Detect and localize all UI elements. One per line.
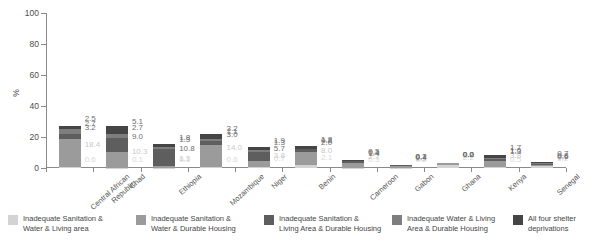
bar-value-label: 3.2 xyxy=(226,123,237,132)
bar-value-label: 0.5 xyxy=(368,147,379,156)
bar-value-label: 1.8 xyxy=(321,134,332,143)
x-axis-label: Cameroon xyxy=(368,172,400,202)
bar-segment[interactable] xyxy=(437,165,459,168)
bar-value-label: 0.0 xyxy=(463,149,474,158)
bar-segment[interactable] xyxy=(484,167,506,168)
legend-item[interactable]: All four shelter deprivations xyxy=(513,214,600,234)
bars-layer: 0.618.43.22.72.50.110.39.02.75.10.11.310… xyxy=(46,13,566,168)
bar-value-label: 9.0 xyxy=(132,131,143,140)
y-tick-label: 60 xyxy=(30,70,39,80)
bar-stack[interactable] xyxy=(484,155,506,168)
bar-segment[interactable] xyxy=(200,167,222,168)
chart-legend: Inadequate Sanitation & Water & Living a… xyxy=(8,214,600,244)
bar-value-label: 8.0 xyxy=(321,145,332,154)
x-axis-label: Kenya xyxy=(507,172,529,193)
x-axis-label: Mozambique xyxy=(228,172,266,207)
bar-segment[interactable] xyxy=(531,166,553,168)
bar-stack[interactable] xyxy=(248,147,270,168)
bar-segment[interactable] xyxy=(295,152,317,164)
bar-stack[interactable] xyxy=(531,162,553,168)
bar-value-label: 10.8 xyxy=(179,144,195,153)
x-axis-label: Ethiopia xyxy=(177,172,203,197)
bar-stack[interactable] xyxy=(106,126,128,168)
bar-value-label: 2.1 xyxy=(321,153,332,162)
bar-value-label: 1.3 xyxy=(179,153,190,162)
y-tick-label: 80 xyxy=(30,39,39,49)
bar-segment[interactable] xyxy=(59,139,81,168)
legend-swatch xyxy=(136,215,146,225)
bar-value-label: 10.3 xyxy=(132,146,148,155)
legend-label: Inadequate Water & Living Area & Durable… xyxy=(407,214,495,234)
bar-segment[interactable] xyxy=(106,138,128,152)
bar-value-label: 0.6 xyxy=(85,154,96,163)
legend-label: Inadequate Sanitation & Living Area & Du… xyxy=(279,214,381,234)
bar-segment[interactable] xyxy=(153,149,175,166)
bar-stack[interactable] xyxy=(437,163,459,168)
bar-value-label: 0.1 xyxy=(132,154,143,163)
bar-stack[interactable] xyxy=(390,165,412,168)
legend-label: Inadequate Sanitation & Water & Durable … xyxy=(151,214,236,234)
y-axis-title: % xyxy=(11,89,21,97)
legend-item[interactable]: Inadequate Sanitation & Water & Durable … xyxy=(136,214,236,234)
y-tick-label: 100 xyxy=(25,8,39,18)
bar-segment[interactable] xyxy=(59,167,81,168)
plot-area: 020406080100 0.618.43.22.72.50.110.39.02… xyxy=(46,13,566,168)
bar-value-label: 0.6 xyxy=(226,154,237,163)
stacked-bar-chart: % 020406080100 0.618.43.22.72.50.110.39.… xyxy=(0,0,603,249)
y-tick-label: 0 xyxy=(34,163,39,173)
legend-swatch xyxy=(8,215,18,225)
bar-value-label: 1.9 xyxy=(274,135,285,144)
x-axis-label: Chad xyxy=(128,172,147,191)
bar-segment[interactable] xyxy=(200,145,222,167)
x-axis-label: Benin xyxy=(317,172,337,192)
x-axis-labels: Central African RepublicChadEthiopiaMoza… xyxy=(46,170,566,212)
bar-value-label: 0.2 xyxy=(416,151,427,160)
bar-stack[interactable] xyxy=(59,126,81,168)
bar-segment[interactable] xyxy=(106,152,128,168)
x-axis-label: Senegal xyxy=(555,172,581,197)
x-axis-label: Niger xyxy=(269,172,288,191)
bar-value-label: 2.5 xyxy=(85,114,96,123)
bar-value-label: 14.0 xyxy=(226,143,242,152)
y-tick-label: 40 xyxy=(30,101,39,111)
y-tick-label: 20 xyxy=(30,132,39,142)
bar-stack[interactable] xyxy=(342,160,364,168)
x-tick-mark xyxy=(566,168,567,172)
bar-value-label: 18.4 xyxy=(85,139,101,148)
legend-item[interactable]: Inadequate Sanitation & Water & Living a… xyxy=(8,214,103,234)
legend-label: Inadequate Sanitation & Water & Living a… xyxy=(23,214,103,234)
bar-segment[interactable] xyxy=(248,152,270,161)
legend-item[interactable]: Inadequate Water & Living Area & Durable… xyxy=(392,214,495,234)
bar-value-label: 1.8 xyxy=(179,132,190,141)
x-axis-label: Central African Republic xyxy=(88,172,137,218)
bar-segment[interactable] xyxy=(248,167,270,168)
x-axis-label: Ghana xyxy=(460,172,483,194)
bar-value-label: 1.7 xyxy=(510,143,521,152)
legend-swatch xyxy=(513,215,523,225)
legend-item[interactable]: Inadequate Sanitation & Living Area & Du… xyxy=(264,214,381,234)
bar-segment[interactable] xyxy=(295,165,317,168)
x-axis-label: Gabon xyxy=(412,172,435,194)
bar-stack[interactable] xyxy=(200,134,222,168)
bar-stack[interactable] xyxy=(295,146,317,168)
bar-stack[interactable] xyxy=(153,144,175,168)
legend-swatch xyxy=(264,215,274,225)
bar-segment[interactable] xyxy=(106,126,128,134)
bar-value-label: 5.1 xyxy=(132,116,143,125)
bar-value-label: 0.7 xyxy=(557,149,568,158)
legend-label: All four shelter deprivations xyxy=(528,214,600,234)
legend-swatch xyxy=(392,215,402,225)
